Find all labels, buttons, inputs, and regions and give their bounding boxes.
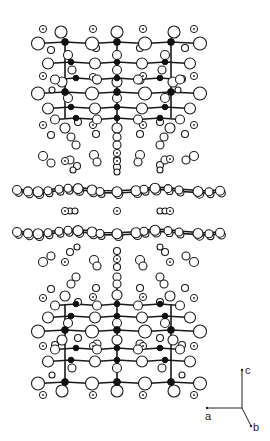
- open-atom: [194, 377, 207, 390]
- open-atom: [24, 187, 33, 196]
- open-atom: [90, 312, 101, 323]
- dotted-atom-center: [169, 261, 171, 263]
- open-atom: [137, 58, 148, 69]
- open-atom: [51, 115, 60, 124]
- open-atom: [93, 75, 102, 84]
- open-atom: [176, 345, 185, 354]
- open-atom: [49, 372, 55, 378]
- open-atom: [55, 26, 67, 38]
- axis-c-arrowhead: [241, 369, 243, 371]
- dotted-atom-center: [193, 345, 195, 347]
- open-atom: [193, 228, 203, 238]
- open-atom: [113, 141, 121, 149]
- open-atom: [113, 51, 122, 60]
- open-atom: [43, 58, 54, 69]
- open-atom: [24, 229, 33, 238]
- dotted-atom-center: [142, 345, 144, 347]
- open-atom: [216, 186, 225, 195]
- dotted-atom-center: [42, 124, 44, 126]
- open-atom: [39, 152, 48, 161]
- open-atom: [165, 123, 175, 133]
- dotted-atom-center: [142, 124, 144, 126]
- open-atom: [182, 285, 189, 292]
- open-atom: [96, 229, 104, 237]
- metal-atom: [73, 345, 79, 351]
- dotted-atom-center: [92, 394, 94, 396]
- open-atom: [67, 249, 74, 256]
- open-atom: [157, 244, 163, 250]
- metal-atom: [157, 75, 163, 81]
- dotted-atom-center: [92, 124, 94, 126]
- open-atom: [150, 183, 160, 193]
- axis-a-label: a: [205, 410, 212, 422]
- metal-atom: [162, 59, 168, 65]
- open-atom: [176, 301, 185, 310]
- open-atom: [72, 141, 80, 149]
- open-atom: [55, 227, 63, 235]
- open-atom: [93, 131, 100, 138]
- open-atom: [67, 280, 75, 288]
- open-atom: [90, 103, 101, 114]
- open-atom: [134, 158, 142, 166]
- open-atom: [86, 377, 99, 390]
- open-atom: [176, 75, 185, 84]
- metal-atom: [68, 313, 74, 319]
- open-atom: [137, 285, 144, 292]
- dotted-atom-center: [42, 297, 44, 299]
- open-atom: [112, 335, 122, 345]
- metal-atom: [62, 327, 69, 334]
- open-atom: [194, 37, 207, 50]
- open-atom: [140, 227, 148, 235]
- open-atom: [157, 335, 164, 342]
- open-atom: [75, 335, 82, 342]
- metal-atom: [114, 313, 120, 319]
- open-atom: [190, 258, 199, 267]
- open-atom: [164, 185, 172, 193]
- open-atom: [48, 286, 55, 293]
- open-atom: [86, 325, 99, 338]
- dotted-atom-center: [116, 210, 118, 212]
- open-atom: [205, 188, 213, 196]
- metal-atom: [73, 301, 79, 307]
- open-atom: [93, 115, 102, 124]
- open-atom: [67, 133, 75, 141]
- open-atom: [55, 185, 63, 193]
- open-atom: [56, 385, 68, 397]
- open-atom: [44, 229, 52, 237]
- open-atom: [139, 377, 152, 390]
- open-atom: [165, 291, 175, 301]
- open-atom: [190, 152, 199, 161]
- atoms-layer: [13, 25, 226, 398]
- open-atom: [114, 264, 121, 271]
- dotted-atom-center: [142, 75, 144, 77]
- metal-atom: [62, 89, 69, 96]
- metal-atom: [157, 301, 163, 307]
- open-atom: [64, 51, 73, 60]
- metal-atom: [168, 89, 175, 96]
- open-atom: [139, 262, 147, 270]
- open-atom: [113, 364, 122, 373]
- open-atom: [60, 291, 70, 301]
- dotted-atom-center: [92, 296, 94, 298]
- open-atom: [51, 75, 60, 84]
- metal-atom: [73, 75, 79, 81]
- open-atom: [137, 131, 144, 138]
- open-atom: [72, 273, 80, 281]
- metal-atom: [162, 357, 168, 363]
- open-atom: [72, 208, 78, 214]
- metal-atom: [68, 104, 74, 110]
- open-atom: [185, 103, 196, 114]
- dotted-atom-center: [193, 75, 195, 77]
- open-atom: [156, 141, 164, 149]
- open-atom: [182, 156, 190, 164]
- dotted-atom-center: [42, 345, 44, 347]
- metal-atom: [114, 75, 120, 81]
- axis-indicator: a b c: [205, 364, 259, 433]
- open-atom: [131, 228, 141, 238]
- open-atom: [47, 159, 55, 167]
- open-atom: [137, 312, 148, 323]
- open-atom: [68, 364, 76, 372]
- open-atom: [134, 115, 143, 124]
- open-atom: [111, 385, 123, 397]
- open-atom: [179, 372, 185, 378]
